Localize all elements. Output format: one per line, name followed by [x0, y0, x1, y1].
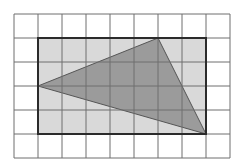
- grid-diagram: [0, 0, 242, 166]
- grid-diagram-canvas: [0, 0, 242, 166]
